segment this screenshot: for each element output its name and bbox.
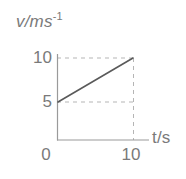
- y-axis-label-text: v/ms: [16, 12, 53, 31]
- velocity-time-graph: v/ms-1 t/s 10 5 0 10: [0, 0, 186, 179]
- x-tick-label-0: 0: [34, 145, 58, 165]
- x-axis-label: t/s: [152, 128, 171, 148]
- x-tick-label-10: 10: [116, 145, 146, 165]
- y-tick-label-5: 5: [22, 92, 52, 112]
- y-axis-label-exponent: -1: [53, 10, 63, 22]
- y-tick-label-10: 10: [22, 48, 52, 68]
- data-line-velocity: [58, 58, 133, 102]
- y-axis-label: v/ms-1: [16, 12, 63, 32]
